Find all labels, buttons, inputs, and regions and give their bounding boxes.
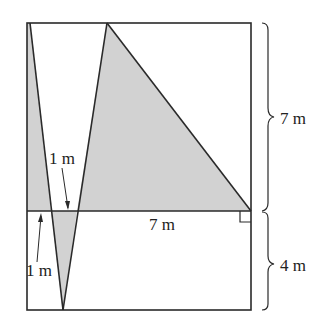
shaded-left-sliver xyxy=(27,23,51,211)
arrowhead-lower-gap xyxy=(38,213,43,222)
label-base-width: 7 m xyxy=(149,215,175,234)
label-lower-height: 4 m xyxy=(280,256,306,275)
shaded-lower-triangle xyxy=(51,211,77,310)
label-gap-upper: 1 m xyxy=(49,149,75,168)
arrowhead-upper-gap xyxy=(65,201,70,210)
label-upper-height: 7 m xyxy=(280,109,306,128)
brace-lower xyxy=(262,212,274,310)
right-angle-marker xyxy=(240,211,251,222)
brace-upper xyxy=(262,23,274,211)
geometry-diagram: 7 m 4 m 7 m 1 m 1 m xyxy=(0,0,335,334)
label-gap-lower: 1 m xyxy=(26,261,52,280)
arrow-lower-gap xyxy=(37,216,41,262)
